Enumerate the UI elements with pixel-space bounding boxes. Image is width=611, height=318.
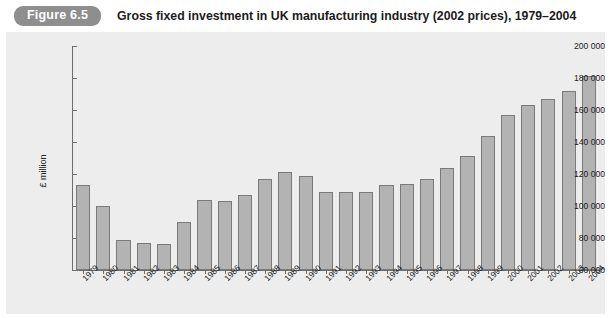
y-axis-tick — [72, 46, 77, 47]
bar — [420, 179, 434, 270]
bar — [501, 115, 515, 270]
y-axis-tick — [72, 174, 77, 175]
bar-chart-plot: £ million 200 000180 000160 000140 00012… — [6, 32, 605, 314]
bar — [96, 206, 110, 270]
y-axis-tick-label: 140 000 — [547, 137, 605, 147]
y-axis-tick — [72, 206, 77, 207]
y-axis-tick — [72, 142, 77, 143]
y-axis-tick — [72, 270, 77, 271]
bar — [137, 243, 151, 270]
bar — [521, 105, 535, 270]
figure-header: Figure 6.5 Gross fixed investment in UK … — [0, 0, 611, 32]
bar — [238, 195, 252, 270]
bar — [440, 168, 454, 270]
bar — [197, 200, 211, 270]
bar — [460, 156, 474, 270]
y-axis-label: £ million — [38, 136, 48, 206]
y-axis-tick-label: 120 000 — [547, 169, 605, 179]
bar — [481, 136, 495, 270]
chart-panel: £ million 200 000180 000160 000140 00012… — [6, 32, 605, 314]
bar — [177, 222, 191, 270]
y-axis-tick-label: 80 000 — [547, 233, 605, 243]
bar — [116, 240, 130, 270]
figure-number-badge: Figure 6.5 — [14, 6, 101, 26]
bar — [562, 91, 576, 270]
bar — [359, 192, 373, 270]
y-axis-tick — [72, 110, 77, 111]
bar — [299, 176, 313, 270]
bar — [319, 192, 333, 270]
y-axis-tick-label: 180 000 — [547, 73, 605, 83]
y-axis-tick — [72, 238, 77, 239]
bar — [76, 185, 90, 270]
y-axis-tick-label: 160 000 — [547, 105, 605, 115]
y-axis-tick — [72, 78, 77, 79]
bar — [258, 179, 272, 270]
y-axis-tick-label: 200 000 — [547, 41, 605, 51]
y-axis-tick-label: 100 000 — [547, 201, 605, 211]
figure-container: Figure 6.5 Gross fixed investment in UK … — [0, 0, 611, 318]
bar — [400, 184, 414, 270]
figure-title: Gross fixed investment in UK manufacturi… — [117, 9, 576, 23]
bar — [541, 99, 555, 270]
bar — [339, 192, 353, 270]
bar — [218, 201, 232, 270]
bar — [379, 185, 393, 270]
bar — [278, 172, 292, 270]
bars-layer — [73, 46, 599, 270]
